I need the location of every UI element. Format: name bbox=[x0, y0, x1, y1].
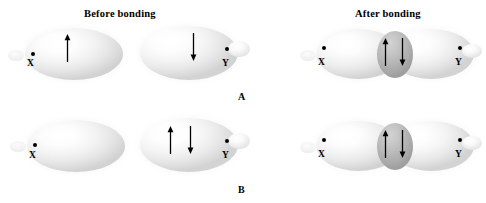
heading-after-bonding: After bonding bbox=[355, 8, 421, 19]
atom-label-y-a-before: Y bbox=[222, 58, 229, 68]
nucleus-dot-y-a-before bbox=[225, 47, 229, 51]
nucleus-dot-x-a-after bbox=[322, 46, 326, 50]
atom-label-y-a-after: Y bbox=[455, 57, 462, 67]
nucleus-dot-x-b-before bbox=[33, 143, 37, 147]
nucleus-dot-y-b-after bbox=[458, 138, 462, 142]
atom-label-x-b-before: X bbox=[29, 150, 36, 160]
orbital-back-lobe-x-b-before bbox=[10, 141, 26, 152]
spin-arrow-up-y-b-before bbox=[166, 125, 175, 155]
orbital-back-lobe-y-b-before bbox=[228, 133, 250, 149]
spin-arrow-down-overlap-a bbox=[398, 37, 407, 67]
atom-label-x-a-before: X bbox=[27, 58, 34, 68]
nucleus-dot-y-a-after bbox=[458, 46, 462, 50]
atom-label-y-b-before: Y bbox=[222, 150, 229, 160]
orbital-front-lobe-x-a-before bbox=[25, 28, 123, 80]
orbital-front-lobe-x-b-before bbox=[27, 120, 125, 172]
orbital-back-lobe-x-a-after bbox=[300, 50, 316, 61]
orbital-back-lobe-x-b-after bbox=[300, 142, 316, 153]
spin-arrow-down-y-a-before bbox=[189, 32, 198, 62]
atom-label-x-a-after: X bbox=[318, 57, 325, 67]
spin-arrow-down-y-b-before bbox=[186, 125, 195, 155]
atom-label-y-b-after: Y bbox=[455, 149, 462, 159]
nucleus-dot-x-a-before bbox=[31, 52, 35, 56]
panel-letter-b: B bbox=[238, 184, 245, 195]
orbital-back-lobe-y-a-before bbox=[228, 41, 250, 57]
spin-arrow-up-overlap-b bbox=[381, 129, 390, 159]
spin-arrow-up-x-a-before bbox=[63, 33, 72, 63]
figure-canvas: Before bonding After bonding X Y bbox=[0, 0, 486, 203]
spin-arrow-up-overlap-a bbox=[381, 37, 390, 67]
heading-before-bonding: Before bonding bbox=[84, 8, 156, 19]
orbital-back-lobe-x-a-before bbox=[8, 50, 24, 61]
panel-letter-a: A bbox=[238, 91, 245, 102]
orbital-back-lobe-y-a-after bbox=[462, 44, 482, 58]
orbital-back-lobe-y-b-after bbox=[462, 136, 482, 150]
atom-label-x-b-after: X bbox=[318, 149, 325, 159]
nucleus-dot-y-b-before bbox=[225, 139, 229, 143]
nucleus-dot-x-b-after bbox=[322, 138, 326, 142]
spin-arrow-down-overlap-b bbox=[398, 129, 407, 159]
